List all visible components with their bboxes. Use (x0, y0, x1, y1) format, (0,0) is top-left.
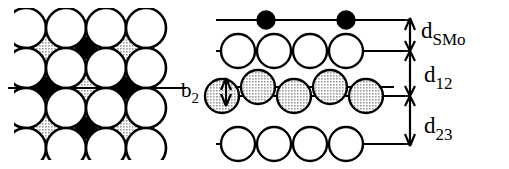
substrate-atom-shaded (313, 70, 347, 104)
substrate-atom-open (293, 127, 327, 161)
label-b2-sub: 2 (192, 90, 200, 106)
label-d12-base: d (424, 62, 436, 87)
substrate-atom (126, 48, 166, 88)
adatom-black (257, 11, 275, 29)
substrate-atom-open (329, 34, 363, 68)
substrate-atom (126, 88, 166, 128)
substrate-atom-open (221, 34, 255, 68)
label-d23-sub: 23 (436, 125, 453, 144)
substrate-atom (46, 88, 86, 128)
top-view-panel (6, 8, 186, 168)
substrate-atom (126, 8, 166, 48)
substrate-atom (86, 48, 126, 88)
label-d-smo-base: d (421, 18, 433, 43)
substrate-atom-open (293, 34, 327, 68)
substrate-atom-open (257, 127, 291, 161)
substrate-atom-open (257, 34, 291, 68)
label-d-smo-sub: SMo (433, 30, 466, 49)
substrate-atom (46, 48, 86, 88)
substrate-atom-open (221, 127, 255, 161)
label-b2-base: b (181, 78, 192, 102)
substrate-atom-shaded (277, 79, 311, 113)
adatom-black (337, 11, 355, 29)
substrate-atom (86, 8, 126, 48)
figure-root: b2 dSMo d12 d23 (0, 0, 509, 169)
substrate-atom-shaded (241, 70, 275, 104)
substrate-atom-open (329, 127, 363, 161)
substrate-atom (86, 88, 126, 128)
figure-svg: b2 dSMo d12 d23 (0, 0, 509, 169)
substrate-atom (46, 8, 86, 48)
label-d12-sub: 12 (436, 74, 453, 93)
substrate-atom-shaded (349, 79, 383, 113)
label-d23-base: d (424, 113, 436, 138)
